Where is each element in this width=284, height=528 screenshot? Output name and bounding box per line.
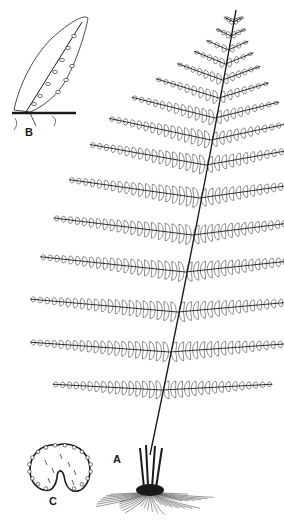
sorus-detail-inset-c	[28, 443, 93, 491]
fern-illustration	[0, 0, 284, 528]
fern-frond	[30, 10, 284, 455]
pinnule-detail-inset-b	[12, 17, 88, 130]
label-a: A	[113, 453, 121, 465]
label-b: B	[25, 126, 33, 138]
label-c: C	[49, 495, 57, 507]
